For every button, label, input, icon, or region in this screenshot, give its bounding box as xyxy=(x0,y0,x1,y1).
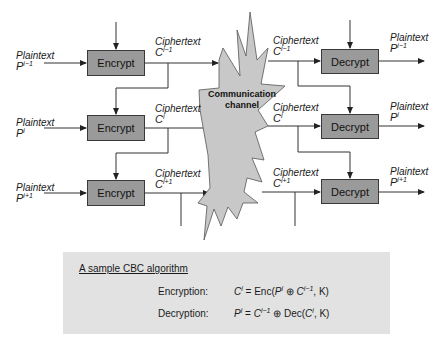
label-superscript: i xyxy=(163,113,165,120)
plaintext-out-label-2: Plaintext Pi xyxy=(390,101,428,123)
decrypt-block-2: Decrypt xyxy=(321,114,379,139)
formula-text: , K) xyxy=(313,286,329,297)
formula-symbol: C xyxy=(254,308,261,319)
encryption-label: Encryption: xyxy=(158,286,234,297)
label-symbol: C xyxy=(273,112,281,124)
formula-symbol: P xyxy=(234,308,241,319)
label-superscript: i+1 xyxy=(23,192,33,199)
formula-superscript: i−1 xyxy=(261,307,271,314)
label-superscript: i+1 xyxy=(281,177,291,184)
ciphertext-enc-label-2: Ciphertext Ci xyxy=(155,103,201,125)
ciphertext-enc-label-1: Ciphertext Ci−1 xyxy=(155,36,201,58)
channel-label: Communication channel xyxy=(200,89,284,111)
decrypt-label: Decrypt xyxy=(331,121,369,133)
label-superscript: i−1 xyxy=(163,46,173,53)
label-superscript: i−1 xyxy=(23,60,33,67)
ciphertext-enc-label-3: Ciphertext Ci+1 xyxy=(155,168,201,190)
cbc-formula-box: A sample CBC algorithm Encryption:Ci = E… xyxy=(63,252,390,334)
ciphertext-dec-label-1: Ciphertext Ci−1 xyxy=(273,35,319,57)
label-symbol: C xyxy=(155,113,163,125)
plaintext-out-label-1: Plaintext Pi−1 xyxy=(390,32,428,54)
label-superscript: i−1 xyxy=(397,42,407,49)
channel-label-line1: Communication xyxy=(200,89,284,100)
ciphertext-dec-label-3: Ciphertext Ci+1 xyxy=(273,167,319,189)
label-symbol: C xyxy=(273,45,281,57)
label-symbol: C xyxy=(273,177,281,189)
plaintext-in-label-2: Plaintext Pi xyxy=(16,117,54,139)
decrypt-label: Decrypt xyxy=(331,56,369,68)
label-superscript: i xyxy=(281,112,283,119)
label-superscript: i xyxy=(23,127,25,134)
decryption-label: Decryption: xyxy=(158,308,234,319)
encryption-formula: Encryption:Ci = Enc(Pi ⊕ Ci−1, K) xyxy=(158,286,329,297)
label-superscript: i xyxy=(397,111,399,118)
plaintext-in-label-3: Plaintext Pi+1 xyxy=(16,182,54,204)
decrypt-label: Decrypt xyxy=(331,186,369,198)
formula-title: A sample CBC algorithm xyxy=(79,263,188,274)
label-superscript: i+1 xyxy=(397,176,407,183)
label-symbol: C xyxy=(155,178,163,190)
encrypt-block-3: Encrypt xyxy=(87,180,145,206)
formula-text: = xyxy=(242,308,253,319)
channel-label-line2: channel xyxy=(200,100,284,111)
formula-text: , K) xyxy=(314,308,330,319)
encrypt-label: Encrypt xyxy=(97,57,134,69)
label-symbol: C xyxy=(155,46,163,58)
label-superscript: i−1 xyxy=(281,45,291,52)
encrypt-label: Encrypt xyxy=(97,187,134,199)
plaintext-in-label-1: Plaintext Pi−1 xyxy=(16,50,54,72)
formula-superscript: i−1 xyxy=(304,285,314,292)
formula-symbol: C xyxy=(297,286,304,297)
encrypt-block-2: Encrypt xyxy=(87,115,145,141)
decrypt-block-1: Decrypt xyxy=(321,49,379,74)
encrypt-label: Encrypt xyxy=(97,122,134,134)
decryption-formula: Decryption:Pi = Ci−1 ⊕ Dec(Ci, K) xyxy=(158,308,329,319)
xor-operator: ⊕ Dec( xyxy=(270,308,305,319)
ciphertext-dec-label-2: Ciphertext Ci xyxy=(273,102,319,124)
label-superscript: i+1 xyxy=(163,178,173,185)
decrypt-block-3: Decrypt xyxy=(321,179,379,204)
formula-text: = Enc( xyxy=(243,286,275,297)
encrypt-block-1: Encrypt xyxy=(87,50,145,76)
xor-operator: ⊕ xyxy=(283,286,297,297)
plaintext-out-label-3: Plaintext Pi+1 xyxy=(390,166,428,188)
